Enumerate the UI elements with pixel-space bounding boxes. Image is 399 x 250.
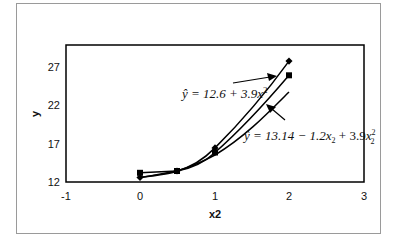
square-marker	[137, 170, 143, 176]
square-marker	[212, 150, 218, 156]
equation-1: ŷ = 12.6 + 3.9x2	[180, 85, 268, 101]
x-axis-ticks: -1 0 1 2 3	[61, 190, 367, 202]
x-tick: 0	[137, 190, 143, 202]
x-tick: 1	[212, 190, 218, 202]
square-marker	[174, 168, 180, 174]
plot-area	[66, 45, 364, 182]
y-tick: 22	[48, 99, 60, 111]
x-tick: 3	[361, 190, 367, 202]
x-axis-label: x2	[209, 208, 221, 220]
x-tick: 2	[286, 190, 292, 202]
y-axis-ticks: 12 17 22 27	[48, 61, 60, 188]
y-axis-label: y	[29, 110, 41, 117]
y-tick: 27	[48, 61, 60, 73]
y-tick: 12	[48, 176, 60, 188]
square-marker	[286, 72, 292, 78]
y-tick: 17	[48, 138, 60, 150]
chart-svg: 12 17 22 27 -1 0 1 2 3 x2 y ŷ = 12.6 + 3…	[0, 0, 399, 250]
x-tick: -1	[61, 190, 71, 202]
